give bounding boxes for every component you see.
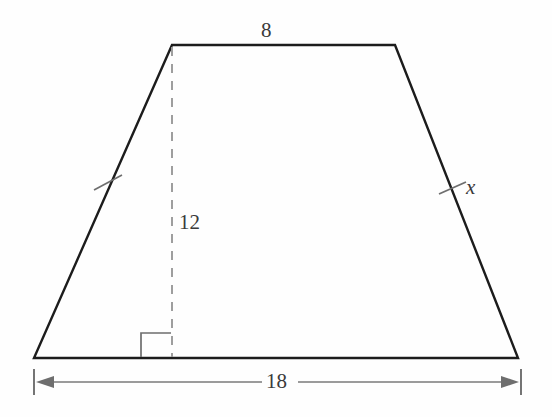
leg-unknown-label: x — [466, 177, 475, 198]
right-angle-icon — [141, 333, 171, 357]
trapezoid-outline — [34, 45, 518, 358]
bottom-base-length-label: 18 — [262, 371, 291, 392]
top-base-length-label: 8 — [261, 20, 272, 41]
figure-canvas — [0, 0, 552, 417]
height-length-label: 12 — [179, 212, 200, 233]
geometry-figure: 8 12 x 18 — [0, 0, 552, 417]
dimension-right-arrowhead-icon — [501, 376, 519, 388]
dimension-left-arrowhead-icon — [36, 376, 54, 388]
